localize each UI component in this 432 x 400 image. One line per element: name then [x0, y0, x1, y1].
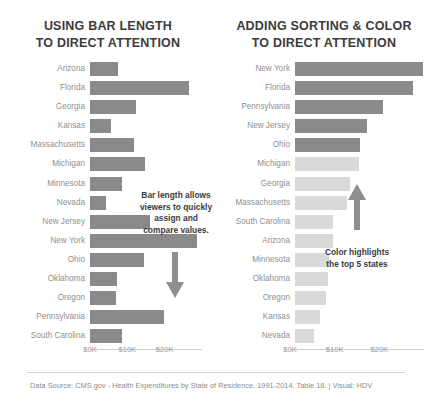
bar-chart-right: New YorkFloridaPennsylvaniaNew JerseyOhi… [216, 62, 432, 362]
bar-track [90, 119, 216, 133]
bar-track [90, 177, 216, 191]
bar-row: South Carolina [216, 215, 432, 229]
bar [90, 81, 189, 95]
bar-track [295, 81, 432, 95]
bar-row: Michigan [0, 157, 216, 171]
bar-track [90, 157, 216, 171]
bar-row: Pennsylvania [0, 310, 216, 324]
bar [90, 119, 111, 133]
bar-category-label: Michigan [0, 157, 90, 171]
bar-category-label: Arizona [216, 234, 295, 248]
bar-track [295, 272, 432, 286]
footer-divider [27, 372, 405, 373]
bar-track [90, 62, 216, 76]
bar-track [295, 157, 432, 171]
x-axis-tick-label: $20K [156, 345, 174, 354]
bar-category-label: Pennsylvania [216, 100, 295, 114]
bar [90, 157, 145, 171]
bar-row: Oregon [216, 291, 432, 305]
bar-category-label: Kansas [216, 310, 295, 324]
bar-track [90, 291, 216, 305]
bar [90, 272, 117, 286]
bar-track [295, 291, 432, 305]
bar-category-label: Minnesota [216, 253, 295, 267]
bar [295, 62, 423, 76]
bar-row: New York [216, 62, 432, 76]
bar-category-label: New York [216, 62, 295, 76]
bar-category-label: Minnesota [0, 177, 90, 191]
bar-category-label: New York [0, 234, 90, 248]
bar [295, 310, 320, 324]
bar-track [90, 253, 216, 267]
x-axis-tick-label: $10K [326, 345, 344, 354]
bar-category-label: Ohio [0, 253, 90, 267]
bar-row: New Jersey [216, 119, 432, 133]
bar-track [295, 100, 432, 114]
x-axis-tick-label: $10K [118, 345, 136, 354]
bar [90, 291, 116, 305]
bar-category-label: Nevada [0, 196, 90, 210]
bar [295, 81, 413, 95]
charts-container: USING BAR LENGTH TO DIRECT ATTENTION Ari… [0, 0, 432, 372]
bar-category-label: Arizona [0, 62, 90, 76]
bar-rows-right: New YorkFloridaPennsylvaniaNew JerseyOhi… [216, 62, 432, 348]
bar [295, 177, 350, 191]
bar-row: Michigan [216, 157, 432, 171]
bar [295, 272, 328, 286]
bar-track [90, 310, 216, 324]
bar-row: Arizona [216, 234, 432, 248]
bar [90, 138, 134, 152]
bar-category-label: Florida [0, 81, 90, 95]
x-axis-tick-label: $20K [370, 345, 388, 354]
bar [295, 234, 333, 248]
bar-category-label: Georgia [0, 100, 90, 114]
x-axis-tick-label: $0K [83, 345, 97, 354]
bar-row: Massachusetts [0, 138, 216, 152]
bar-row: Minnesota [0, 177, 216, 191]
annotation-right: Color highlights the top 5 states [321, 247, 393, 270]
bar-category-label: Oregon [216, 291, 295, 305]
bar-row: Massachusetts [216, 196, 432, 210]
bar-category-label: New Jersey [0, 215, 90, 229]
bar-category-label: Massachusetts [216, 196, 295, 210]
bar-category-label: Massachusetts [0, 138, 90, 152]
x-axis-right: $0K$10K$20K [216, 340, 432, 354]
bar [90, 177, 122, 191]
bar-track [295, 62, 432, 76]
bar [295, 196, 347, 210]
chart-panel-left: USING BAR LENGTH TO DIRECT ATTENTION Ari… [0, 0, 216, 372]
bar-track [90, 81, 216, 95]
bar [295, 291, 326, 305]
arrow-down-icon [164, 252, 186, 300]
bar-row: Kansas [216, 310, 432, 324]
bar [295, 100, 383, 114]
bar-category-label: South Carolina [216, 215, 295, 229]
chart-title-left: USING BAR LENGTH TO DIRECT ATTENTION [0, 0, 216, 52]
bar [90, 310, 164, 324]
bar-row: Pennsylvania [216, 100, 432, 114]
infographic-page: USING BAR LENGTH TO DIRECT ATTENTION Ari… [0, 0, 432, 400]
bar-category-label: Kansas [0, 119, 90, 133]
bar-row: Oklahoma [216, 272, 432, 286]
bar-row: Arizona [0, 62, 216, 76]
bar-category-label: Michigan [216, 157, 295, 171]
bar-category-label: Oklahoma [216, 272, 295, 286]
bar-track [90, 272, 216, 286]
bar [90, 62, 118, 76]
bar-track [295, 119, 432, 133]
bar-track [295, 138, 432, 152]
x-axis-left: $0K$10K$20K [0, 340, 216, 354]
bar [295, 215, 333, 229]
annotation-left: Bar length allows viewers to quickly ass… [138, 190, 214, 236]
bar-category-label: Oregon [0, 291, 90, 305]
bar-category-label: Pennsylvania [0, 310, 90, 324]
arrow-up-icon [346, 182, 368, 230]
bar-row: Ohio [216, 138, 432, 152]
source-caption: Data Source: CMS.gov - Health Expenditur… [30, 381, 372, 390]
bar-row: Kansas [0, 119, 216, 133]
bar-track [295, 310, 432, 324]
bar-category-label: Oklahoma [0, 272, 90, 286]
bar-row: Georgia [216, 177, 432, 191]
bar [295, 119, 367, 133]
bar-track [90, 100, 216, 114]
